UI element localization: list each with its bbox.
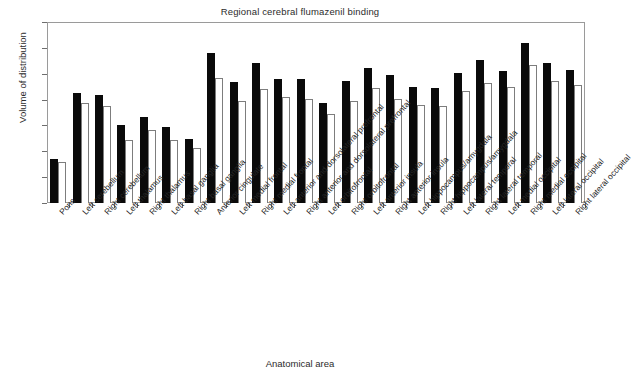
bar-group[interactable]: [47, 22, 69, 203]
chart-title: Regional cerebral flumazenil binding: [0, 6, 600, 17]
bar-series-2[interactable]: [58, 162, 66, 203]
bar-series-1[interactable]: [73, 93, 81, 203]
x-axis-label: Anatomical area: [0, 358, 600, 369]
bar-group[interactable]: [69, 22, 91, 203]
bar-series-2[interactable]: [81, 103, 89, 203]
bar-series-1[interactable]: [252, 63, 260, 203]
bar-series-1[interactable]: [476, 60, 484, 204]
bar-series-1[interactable]: [50, 159, 58, 203]
y-axis-label: Volume of distribution: [17, 18, 28, 138]
